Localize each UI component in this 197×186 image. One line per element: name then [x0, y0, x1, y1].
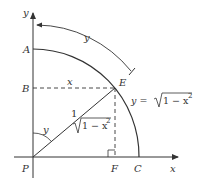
sqrt-exponent: 2 — [106, 117, 110, 125]
axis-label-y: y — [22, 7, 29, 18]
curve-equation-radicand: 1 − x — [163, 95, 189, 106]
axis-label-x: x — [170, 163, 176, 174]
segment-BE-label: x — [67, 76, 73, 87]
point-label-C: C — [134, 163, 142, 174]
sqrt-radicand: 1 − x — [82, 120, 108, 131]
unit-circle-arc — [33, 49, 139, 157]
curve-equation-exponent: 2 — [188, 92, 192, 100]
curve-equation-lhs: y = — [130, 95, 147, 106]
arc-length-label: y — [83, 32, 90, 43]
point-label-E: E — [118, 77, 127, 88]
curve-equation-label: y = 1 − x 2 — [130, 92, 192, 107]
angle-label: y — [42, 124, 49, 135]
point-label-B: B — [21, 83, 29, 94]
segment-PF-label: 1 − x 2 — [73, 117, 111, 133]
radius-label: 1 — [71, 108, 77, 119]
point-label-A: A — [22, 44, 30, 55]
diagram-canvas: y x A B E P F C y x 1 y 1 − x 2 y = 1 − … — [0, 0, 197, 186]
point-label-F: F — [110, 163, 119, 174]
right-angle-marker — [108, 150, 115, 157]
point-label-P: P — [21, 163, 29, 174]
